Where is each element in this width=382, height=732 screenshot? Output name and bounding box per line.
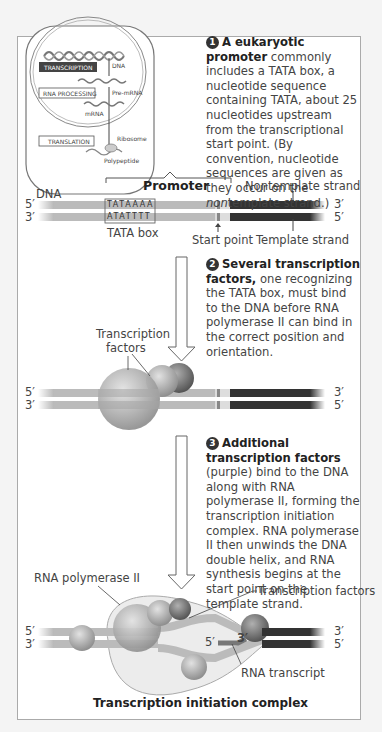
end-label-5: 5′: [25, 197, 35, 211]
end-label-3: 3′: [334, 197, 344, 211]
rna-3-end-label: 3′: [237, 631, 248, 645]
figure-caption: Transcription initiation complex: [93, 696, 308, 710]
translation-box-label: TRANSLATION: [48, 138, 90, 145]
down-arrow-2: [168, 436, 195, 589]
end-label-3: 3′: [334, 624, 344, 638]
rna-processing-box-label: RNA PROCESSING: [43, 90, 97, 97]
rna-transcript-label: RNA transcript: [241, 666, 325, 680]
end-label-3: 3′: [334, 385, 344, 399]
dna-label: DNA: [36, 187, 61, 201]
end-label-3: 3′: [25, 398, 35, 412]
end-label-5: 5′: [334, 210, 344, 224]
start-point-label: Start point: [192, 233, 253, 247]
step1-italic: non: [206, 196, 228, 210]
transcription-factors-label-line1: Transcription: [96, 327, 170, 341]
ribosome-label: Ribosome: [117, 135, 147, 142]
transcription-factors-label-line2: factors: [106, 341, 146, 355]
end-label-5: 5′: [25, 624, 35, 638]
step2-description: 2Several transcription factors, one reco…: [206, 257, 361, 359]
template-strand-label: Template strand: [256, 233, 349, 247]
step-number-badge-2: 2: [206, 258, 219, 271]
end-label-3: 3′: [25, 637, 35, 651]
promoter-label: Promoter: [143, 178, 209, 193]
step-number-badge-3: 3: [206, 437, 219, 450]
end-label-5: 5′: [334, 398, 344, 412]
end-label-3: 3′: [25, 210, 35, 224]
polypeptide-label: Polypeptide: [104, 157, 139, 164]
tata-sequence-bottom: ATATTTT: [107, 212, 151, 221]
step1-text-a: commonly includes a TATA box, a nucleoti…: [206, 50, 357, 195]
cell-overview-icon: [26, 17, 154, 194]
transcription-box-label: TRANSCRIPTION: [44, 64, 92, 71]
step1-text-b: template strand.): [228, 196, 329, 210]
end-label-5: 5′: [334, 637, 344, 651]
nontemplate-strand-label: Nontemplate strand: [245, 179, 360, 193]
pre-mrna-label: Pre-mRNA: [112, 89, 142, 96]
rna-polymerase-ii-label: RNA polymerase II: [34, 571, 140, 585]
mrna-label: mRNA: [85, 110, 104, 117]
step-number-badge-1: 1: [206, 36, 219, 49]
tata-sequence-top: TATAAAA: [107, 200, 154, 209]
tata-box-label: TATA box: [107, 226, 159, 240]
rna-5-end-label: 5′: [205, 635, 215, 649]
dna-label-small: DNA: [112, 62, 125, 69]
step3-heading: Additional transcription factors: [206, 436, 341, 465]
transcription-factors-label: Transcription factors: [258, 584, 375, 598]
down-arrow-1: [168, 257, 195, 361]
end-label-5: 5′: [25, 385, 35, 399]
tf-binding-dna: [38, 354, 325, 430]
